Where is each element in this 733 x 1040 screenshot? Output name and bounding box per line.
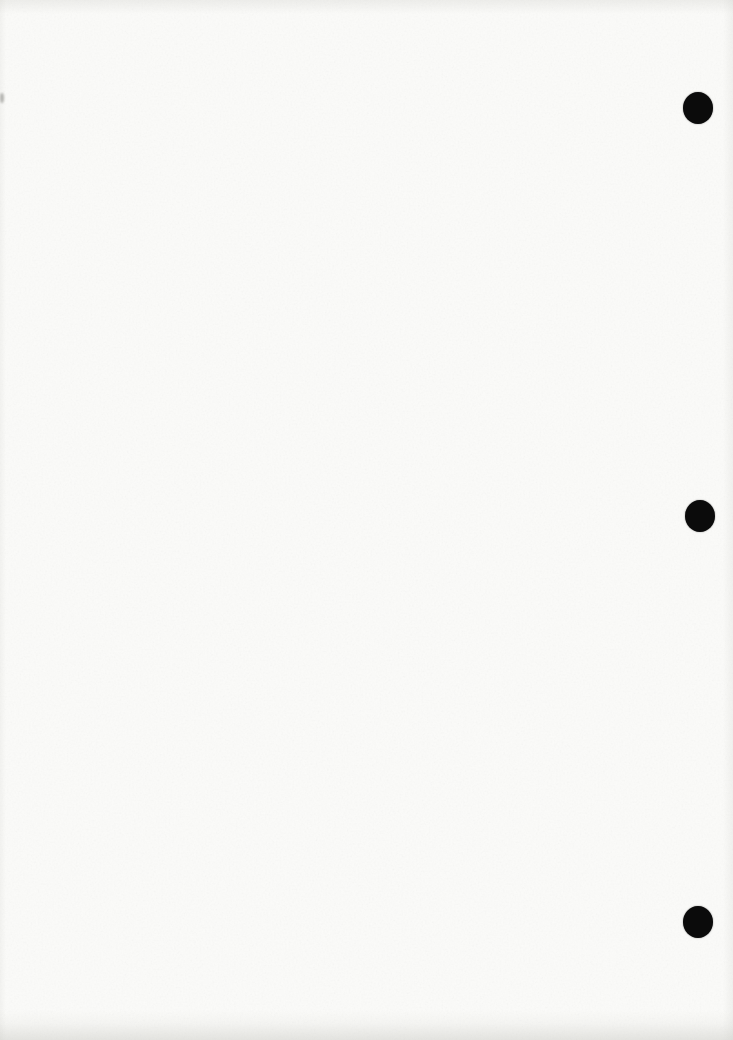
- edge-smudge: [0, 93, 4, 103]
- left-edge-shading: [0, 0, 6, 1040]
- right-edge-shading: [723, 0, 733, 1040]
- punch-hole: [683, 906, 713, 938]
- paper-texture: [0, 0, 733, 1040]
- punch-hole: [683, 92, 713, 124]
- bottom-edge-shading: [0, 1010, 733, 1040]
- scanned-page: [0, 0, 733, 1040]
- top-edge-shading: [0, 0, 733, 14]
- punch-hole: [685, 500, 715, 532]
